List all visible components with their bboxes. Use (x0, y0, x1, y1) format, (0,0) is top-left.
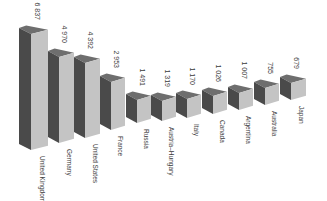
bar-side-face (19, 28, 31, 150)
bar-front-face (85, 59, 100, 138)
value-label: 755 (267, 62, 274, 74)
category-label: Austria–Hungary (167, 127, 175, 176)
category-label: Australia (271, 111, 278, 137)
category-label: Argentina (244, 116, 252, 144)
value-label: 4 970 (61, 25, 68, 43)
bar-canada: 1 026Canada (202, 64, 227, 143)
value-label: 2 953 (113, 50, 120, 68)
bar-front-face (162, 97, 176, 121)
category-label: Russia (143, 129, 150, 149)
bar-australia: 755Australia (254, 62, 279, 136)
bar-front-face (137, 96, 151, 123)
bar-side-face (74, 57, 85, 138)
bar-front-face (111, 78, 125, 130)
bar-austria-hungary: 1 319Austria–Hungary (151, 69, 176, 176)
value-label: 1 170 (189, 67, 196, 85)
category-label: Canada (219, 120, 226, 143)
category-label: France (117, 136, 124, 157)
bar-russia: 1 491Russia (126, 68, 151, 149)
value-label: 1 491 (139, 68, 146, 86)
value-label: 6 837 (34, 2, 41, 20)
value-label: 679 (293, 57, 300, 69)
bar-argentina: 1 007Argentina (228, 61, 253, 144)
bar-side-face (48, 51, 59, 143)
category-label: Japan (297, 106, 305, 124)
bar-italy: 1 170Italy (176, 67, 201, 136)
category-label: Germany (65, 149, 73, 176)
bar-japan: 679Japan (280, 57, 306, 124)
value-label: 1 026 (215, 64, 222, 82)
category-label: United States (92, 144, 99, 184)
bar-united-kingdom: 6 837United Kingdom (19, 2, 48, 201)
value-label: 4 392 (87, 31, 94, 49)
bar-france: 2 953France (100, 50, 125, 156)
bar-united-states: 4 392United States (74, 31, 100, 183)
bar-chart: 6 837United Kingdom4 970Germany4 392Unit… (0, 0, 327, 201)
category-label: Italy (192, 124, 200, 137)
bar-front-face (59, 53, 74, 143)
bar-germany: 4 970Germany (48, 25, 74, 176)
category-label: United Kingdom (38, 156, 46, 201)
bar-front-face (31, 30, 48, 150)
bar-side-face (100, 76, 111, 130)
value-label: 1 007 (241, 61, 248, 79)
value-label: 1 319 (164, 69, 171, 87)
